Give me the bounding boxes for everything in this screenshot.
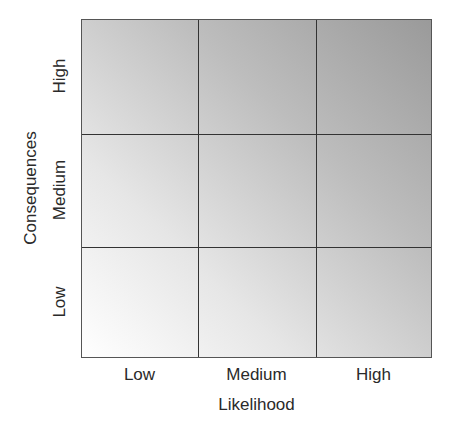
grid-line-vertical-1 — [198, 20, 199, 357]
x-axis-label: Likelihood — [81, 395, 432, 415]
x-tick-high: High — [315, 365, 432, 385]
y-tick-high-text: High — [50, 59, 70, 94]
y-tick-medium-text: Medium — [50, 160, 70, 220]
grid-line-horizontal-2 — [82, 247, 431, 248]
risk-matrix-grid — [81, 19, 432, 358]
x-tick-medium: Medium — [198, 365, 315, 385]
x-tick-low: Low — [81, 365, 198, 385]
y-axis-label-text: Consequences — [21, 131, 41, 244]
grid-line-horizontal-1 — [82, 134, 431, 135]
grid-line-vertical-2 — [316, 20, 317, 357]
y-tick-low-text: Low — [50, 286, 70, 317]
